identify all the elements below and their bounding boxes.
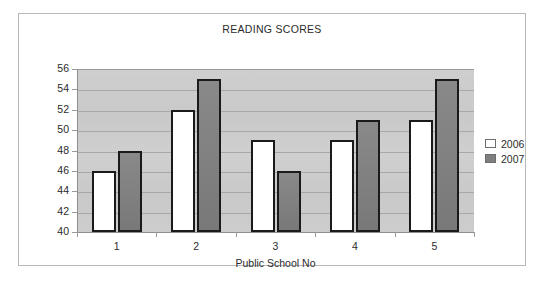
reading-scores-chart: READING SCORES 404244464850525456 12345 … (0, 0, 544, 281)
bar-2007-school-1 (118, 151, 142, 233)
y-axis-tick-label: 40 (23, 225, 69, 237)
bar-2006-school-2 (171, 110, 195, 232)
x-axis-tick-mark (395, 232, 396, 237)
x-axis-tick-label: 1 (114, 240, 120, 252)
x-axis-tick-mark (315, 232, 316, 237)
y-axis-tick-label: 42 (23, 205, 69, 217)
bar-2007-school-4 (356, 120, 380, 232)
chart-legend: 2006 2007 (485, 136, 541, 166)
chart-title: READING SCORES (222, 23, 321, 35)
bars-layer (77, 69, 474, 232)
y-axis-tick-label: 52 (23, 103, 69, 115)
x-axis-title: Public School No (77, 257, 474, 269)
x-axis-tick-mark (474, 232, 475, 237)
legend-label-2007: 2007 (501, 153, 524, 165)
bar-2006-school-1 (92, 171, 116, 232)
y-axis-tick-label: 48 (23, 144, 69, 156)
x-axis-tick-label: 5 (431, 240, 437, 252)
bar-2007-school-2 (197, 79, 221, 232)
x-axis-tick-label: 4 (352, 240, 358, 252)
legend-swatch-2007-icon (485, 154, 496, 163)
legend-swatch-2006-icon (485, 139, 496, 148)
bar-2006-school-5 (409, 120, 433, 232)
y-axis-tick-label: 50 (23, 123, 69, 135)
chart-frame: READING SCORES 404244464850525456 12345 … (18, 13, 526, 266)
legend-item-2007: 2007 (485, 151, 541, 166)
x-axis-line (77, 232, 475, 233)
x-axis-tick-mark (236, 232, 237, 237)
y-axis-tick-label: 54 (23, 82, 69, 94)
bar-2007-school-5 (435, 79, 459, 232)
x-axis-tick-mark (77, 232, 78, 237)
bar-2006-school-3 (251, 140, 275, 232)
x-axis-tick-mark (156, 232, 157, 237)
bar-2007-school-3 (277, 171, 301, 232)
x-axis-tick-label: 3 (273, 240, 279, 252)
bar-2006-school-4 (330, 140, 354, 232)
legend-item-2006: 2006 (485, 136, 541, 151)
legend-label-2006: 2006 (501, 138, 524, 150)
x-axis-tick-label: 2 (193, 240, 199, 252)
y-axis-tick-label: 44 (23, 184, 69, 196)
y-axis-tick-label: 56 (23, 62, 69, 74)
chart-title-container: READING SCORES (19, 23, 525, 35)
y-axis-tick-label: 46 (23, 164, 69, 176)
